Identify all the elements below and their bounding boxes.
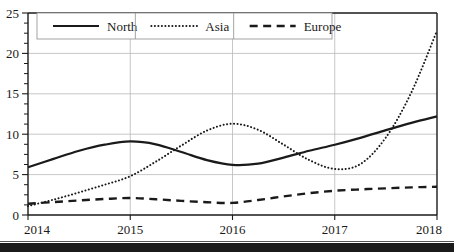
x-axis-tick-labels: 20142015201620172018 — [24, 222, 442, 237]
legend-label-asia: Asia — [205, 19, 229, 34]
x-tick-label: 2016 — [220, 222, 247, 237]
y-tick-label: 5 — [13, 167, 20, 182]
chart-legend: NorthAsiaEurope — [37, 13, 341, 39]
y-tick-label: 0 — [13, 208, 20, 223]
x-tick-label: 2014 — [24, 222, 51, 237]
page-edge-hairline — [0, 241, 454, 242]
line-chart: 0510152025 20142015201620172018 NorthAsi… — [0, 0, 454, 252]
x-tick-label: 2018 — [416, 222, 442, 237]
y-tick-label: 10 — [6, 127, 19, 142]
legend-label-north: North — [107, 19, 138, 34]
chart-figure: 0510152025 20142015201620172018 NorthAsi… — [0, 0, 454, 252]
page-bottom-bar — [0, 243, 454, 252]
y-tick-label: 15 — [6, 86, 19, 101]
x-tick-label: 2015 — [117, 222, 143, 237]
x-axis-major-ticks — [28, 215, 437, 220]
legend-label-europe: Europe — [304, 19, 342, 34]
y-axis-tick-labels: 0510152025 — [6, 6, 19, 223]
y-tick-label: 20 — [6, 46, 19, 61]
x-tick-label: 2017 — [322, 222, 349, 237]
y-tick-label: 25 — [6, 6, 19, 21]
